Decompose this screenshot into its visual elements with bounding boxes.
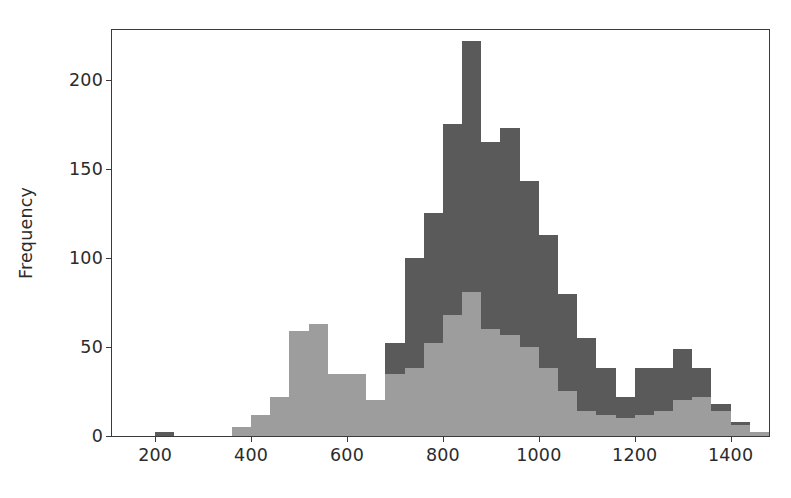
histogram-bar [462,292,481,436]
x-axis-tick-label: 1000 [516,445,561,465]
y-axis-tick [106,80,112,81]
histogram-bar [750,432,769,436]
histogram-bar [232,427,251,436]
y-axis-tick-label: 100 [69,248,103,268]
histogram-bar [366,400,385,436]
histogram-bar [270,397,289,436]
histogram-figure: Frequency 050100150200 20040060080010001… [0,0,791,498]
histogram-bar [539,368,558,436]
histogram-bar [635,415,654,436]
histogram-bar [443,315,462,436]
histogram-bar [616,418,635,436]
histogram-bar [711,411,730,436]
histogram-bar [424,343,443,436]
x-axis-tick [731,436,732,442]
histogram-bar [692,397,711,436]
y-axis-tick [106,258,112,259]
histogram-bar [155,432,174,436]
y-axis-tick-label: 200 [69,70,103,90]
y-axis-tick-label: 150 [69,159,103,179]
histogram-bar [520,347,539,436]
histogram-bar [577,411,596,436]
x-axis-tick [635,436,636,442]
histogram-bar [596,415,615,436]
x-axis-tick-label: 1200 [612,445,657,465]
x-axis-tick-label: 400 [234,445,268,465]
x-axis-tick [155,436,156,442]
histogram-bar [405,368,424,436]
y-axis-tick-label: 0 [92,426,103,446]
histogram-bar [385,374,404,436]
y-axis-tick [106,169,112,170]
y-axis-label: Frequency [16,187,36,279]
y-axis-tick [106,347,112,348]
histogram-bar [558,391,577,436]
x-axis-tick-label: 600 [330,445,364,465]
histogram-bar [731,425,750,436]
histogram-bar [654,411,673,436]
histogram-bar [328,374,347,436]
histogram-bar [309,324,328,436]
plot-area: 050100150200 200400600800100012001400 [111,29,770,437]
x-axis-tick [443,436,444,442]
histogram-bar [251,415,270,436]
y-axis-tick [106,436,112,437]
x-axis-tick-label: 1400 [708,445,753,465]
histogram-bar [481,329,500,436]
histogram-bar [289,331,308,436]
histogram-bar [673,400,692,436]
y-axis-tick-label: 50 [80,337,103,357]
histogram-bar [347,374,366,436]
x-axis-tick [539,436,540,442]
x-axis-tick-label: 200 [138,445,172,465]
x-axis-tick [347,436,348,442]
x-axis-tick-label: 800 [426,445,460,465]
histogram-bar [500,335,519,437]
x-axis-tick [251,436,252,442]
